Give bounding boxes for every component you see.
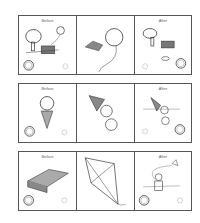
sad-face-icon — [62, 198, 67, 203]
happy-face-icon-circled — [25, 127, 35, 137]
panel-middle — [76, 84, 134, 142]
sequence-row-kite: Before After — [18, 151, 192, 211]
sad-face-icon — [63, 64, 68, 69]
sequence-row-ice-cream: Before After — [18, 83, 192, 143]
tree-bench-balloon-drawing — [19, 16, 76, 74]
tree-bench-deflated-drawing — [135, 16, 191, 74]
happy-face-icon — [143, 129, 148, 134]
happy-face-icon — [143, 64, 148, 69]
panel-before: Before — [19, 16, 76, 74]
panel-after: After — [134, 84, 191, 142]
ice-cream-cone-drawing — [19, 84, 76, 142]
panel-middle — [76, 152, 134, 210]
sequence-row-balloon: Before After — [18, 15, 192, 75]
sad-face-icon — [62, 130, 67, 135]
child-flying-kite-drawing — [135, 152, 191, 210]
kite-drawing — [77, 152, 134, 210]
balloon-popping-drawing — [77, 16, 134, 74]
ice-cream-on-ground-drawing — [135, 84, 191, 142]
sad-face-icon-circled — [176, 59, 186, 69]
panel-after: After — [134, 152, 191, 210]
panel-middle — [76, 16, 134, 74]
kite-box-drawing — [19, 152, 76, 210]
ice-cream-falling-drawing — [77, 84, 134, 142]
panel-after: After — [134, 16, 191, 74]
panel-before: Before — [19, 152, 76, 210]
happy-face-icon-circled — [139, 196, 149, 206]
happy-face-icon-circled — [24, 196, 34, 206]
sad-face-icon — [177, 198, 182, 203]
sad-face-icon-circled — [175, 125, 185, 135]
happy-face-icon-circled — [24, 60, 34, 70]
panel-before: Before — [19, 84, 76, 142]
